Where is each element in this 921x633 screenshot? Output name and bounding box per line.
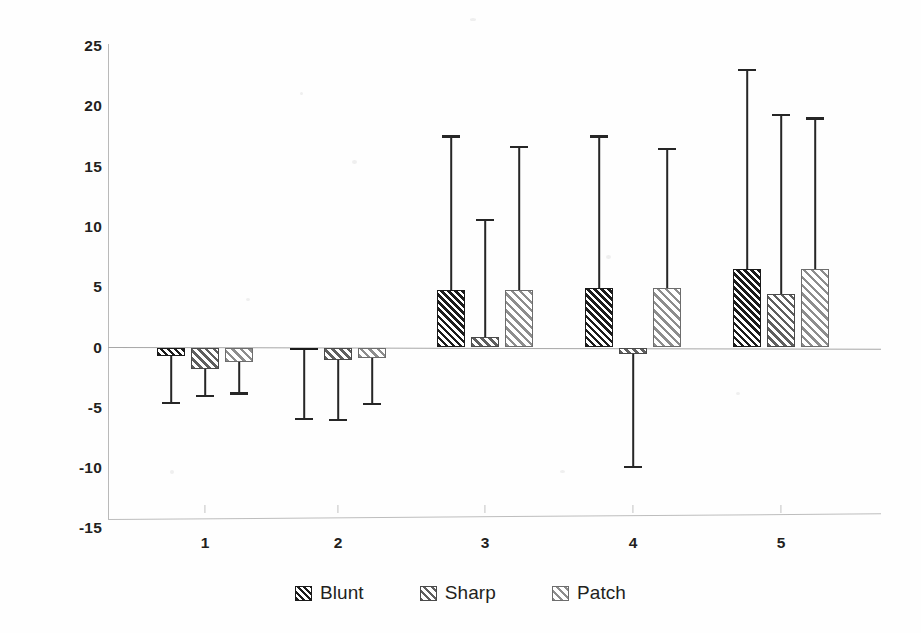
error-bar-cap-sharp-1: [196, 395, 214, 397]
y-tick-label: 10: [56, 218, 102, 236]
bar-patch-4: [653, 288, 681, 347]
error-bar-cap-sharp-3: [476, 219, 494, 221]
error-bar-line-sharp-2: [337, 360, 339, 420]
y-tick-label: -10: [56, 459, 102, 477]
error-bar-cap-blunt-4: [590, 135, 608, 137]
scan-artifact: [470, 18, 476, 21]
error-bar-line-sharp-4: [632, 354, 634, 467]
error-bar-cap-sharp-5: [772, 114, 790, 116]
error-bar-line-patch-4: [666, 149, 668, 289]
bar-patch-1: [225, 348, 253, 362]
error-bar-line-blunt-5: [746, 70, 748, 269]
x-tick-label: 4: [629, 534, 638, 552]
error-bar-line-sharp-1: [204, 369, 206, 396]
bar-blunt-3: [437, 290, 465, 348]
error-bar-line-blunt-3: [450, 136, 452, 289]
error-bar-cap-patch-5: [806, 117, 824, 119]
legend-label: Sharp: [445, 582, 496, 604]
y-axis-tick-labels: 2520151050-5-10-15: [46, 0, 102, 633]
error-bar-cap-patch-1: [230, 392, 248, 394]
bar-sharp-1: [191, 348, 219, 370]
error-bar-cap-blunt-5: [738, 69, 756, 71]
chart-legend: BluntSharpPatch: [0, 582, 921, 604]
legend-item-sharp[interactable]: Sharp: [420, 582, 496, 604]
bar-blunt-5: [733, 269, 761, 347]
y-tick-label: -5: [56, 399, 102, 417]
bar-patch-3: [505, 290, 533, 348]
error-bar-cap-patch-2: [363, 403, 381, 405]
error-bar-cap-patch-4: [658, 148, 676, 150]
y-tick-label: 5: [56, 278, 102, 296]
error-bar-line-patch-3: [518, 147, 520, 289]
error-bar-line-sharp-3: [484, 220, 486, 337]
y-tick-label: 15: [56, 158, 102, 176]
legend-swatch-blunt-icon: [295, 586, 312, 601]
grouped-bar-chart-with-error-bars: 2520151050-5-10-15 12345 BluntSharpPatch: [0, 0, 921, 633]
bar-sharp-5: [767, 294, 795, 347]
x-tick-label: 1: [201, 534, 210, 552]
x-tick-label: 3: [481, 534, 490, 552]
y-tick-label: 0: [56, 339, 102, 357]
legend-item-blunt[interactable]: Blunt: [295, 582, 364, 604]
legend-label: Patch: [577, 582, 626, 604]
bar-blunt-1: [157, 348, 185, 356]
error-bar-cap-blunt-1: [162, 402, 180, 404]
bar-blunt-4: [585, 288, 613, 347]
x-tick-label: 2: [334, 534, 343, 552]
error-bar-cap-blunt-3: [442, 135, 460, 137]
x-tick-label: 5: [777, 534, 786, 552]
y-tick-label: 25: [56, 37, 102, 55]
legend-item-patch[interactable]: Patch: [552, 582, 626, 604]
error-bar-cap-sharp-4: [624, 466, 642, 468]
error-bar-cap-patch-3: [510, 146, 528, 148]
bar-patch-5: [801, 269, 829, 347]
legend-label: Blunt: [320, 582, 364, 604]
error-bar-line-patch-1: [238, 362, 240, 393]
error-bar-line-blunt-1: [170, 356, 172, 403]
error-bar-line-blunt-4: [598, 136, 600, 288]
error-bar-line-blunt-2: [303, 350, 305, 419]
error-bar-line-sharp-5: [780, 115, 782, 295]
y-tick-label: 20: [56, 97, 102, 115]
bar-patch-2: [358, 348, 386, 359]
bar-sharp-2: [324, 348, 352, 360]
legend-swatch-patch-icon: [552, 586, 569, 601]
bar-sharp-3: [471, 337, 499, 348]
error-bar-cap-sharp-2: [329, 419, 347, 421]
error-bar-line-patch-2: [371, 358, 373, 404]
error-bar-cap-blunt-2: [295, 418, 313, 420]
y-tick-label: -15: [56, 519, 102, 537]
legend-swatch-sharp-icon: [420, 586, 437, 601]
error-bar-line-patch-5: [814, 118, 816, 269]
plot-area: [108, 46, 880, 518]
